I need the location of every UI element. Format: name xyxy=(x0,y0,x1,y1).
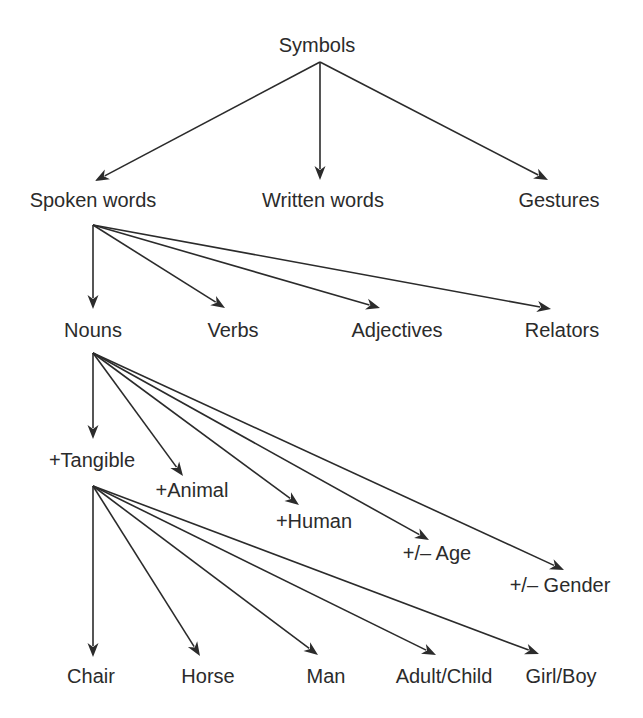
arrow-spoken-to-adjectives xyxy=(93,225,380,309)
arrow-line xyxy=(105,62,320,176)
node-symbols: Symbols xyxy=(279,34,356,56)
node-adjectives: Adjectives xyxy=(351,319,442,341)
arrowhead-icon xyxy=(533,169,548,180)
node-girlboy: Girl/Boy xyxy=(525,665,596,687)
arrow-line xyxy=(93,353,554,565)
symbol-hierarchy-diagram: SymbolsSpoken wordsWritten wordsGestures… xyxy=(0,0,643,718)
arrow-tangible-to-adultchild xyxy=(93,486,436,655)
node-chair: Chair xyxy=(67,665,115,687)
arrow-nouns-to-tangible xyxy=(88,353,99,439)
arrow-symbols-to-spoken xyxy=(95,62,320,181)
edges xyxy=(88,62,565,657)
arrowhead-icon xyxy=(95,170,110,181)
arrowhead-icon xyxy=(304,642,318,655)
arrow-line xyxy=(93,353,419,535)
node-age: +/– Age xyxy=(403,542,471,564)
arrowhead-icon xyxy=(188,641,200,656)
node-horse: Horse xyxy=(181,665,234,687)
arrow-tangible-to-chair xyxy=(88,486,99,657)
node-written: Written words xyxy=(262,189,384,211)
arrowhead-icon xyxy=(210,296,225,308)
arrow-nouns-to-gender xyxy=(93,353,564,570)
arrow-nouns-to-age xyxy=(93,353,429,540)
node-tangible: +Tangible xyxy=(49,449,135,471)
node-adultchild: Adult/Child xyxy=(396,665,493,687)
arrow-line xyxy=(93,225,369,305)
arrow-spoken-to-nouns xyxy=(88,225,99,309)
arrow-symbols-to-gestures xyxy=(320,62,548,180)
node-gestures: Gestures xyxy=(518,189,599,211)
node-human: +Human xyxy=(276,510,352,532)
arrow-line xyxy=(93,225,540,307)
arrow-symbols-to-written xyxy=(315,62,326,180)
node-gender: +/– Gender xyxy=(510,574,611,596)
node-relators: Relators xyxy=(525,319,599,341)
node-animal: +Animal xyxy=(156,479,229,501)
arrow-line xyxy=(320,62,538,175)
arrowhead-icon xyxy=(414,528,429,540)
node-verbs: Verbs xyxy=(207,319,258,341)
arrowhead-icon xyxy=(284,492,299,505)
node-nouns: Nouns xyxy=(64,319,122,341)
node-spoken: Spoken words xyxy=(30,189,157,211)
arrow-line xyxy=(93,353,290,498)
node-man: Man xyxy=(307,665,346,687)
arrowhead-icon xyxy=(170,461,183,476)
